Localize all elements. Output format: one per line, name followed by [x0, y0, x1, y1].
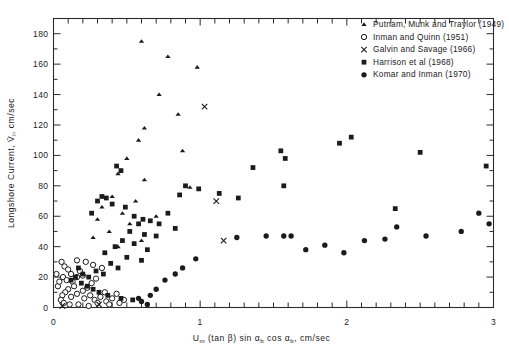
- marker-circle-open: [89, 280, 94, 285]
- marker-triangle: [136, 138, 141, 142]
- marker-triangle: [124, 156, 129, 160]
- marker-circle-filled: [193, 256, 198, 261]
- marker-square: [101, 272, 106, 277]
- marker-circle-filled: [234, 235, 239, 240]
- marker-circle-open: [57, 279, 62, 284]
- marker-x: [214, 198, 220, 204]
- marker-circle-open: [67, 302, 72, 307]
- scatter-plot-figure: 0123020406080100120140160180Putnam, Munk…: [0, 0, 509, 346]
- marker-square: [113, 244, 118, 249]
- marker-square: [278, 148, 283, 153]
- marker-circle-filled: [362, 238, 367, 243]
- marker-circle-filled: [322, 242, 327, 247]
- marker-circle-filled: [173, 271, 178, 276]
- marker-circle-filled: [136, 296, 141, 301]
- y-tick-label: 100: [33, 150, 48, 160]
- marker-square: [130, 298, 135, 303]
- marker-circle-filled: [162, 277, 167, 282]
- marker-square: [95, 199, 100, 204]
- marker-square: [124, 255, 129, 260]
- marker-square: [337, 141, 342, 146]
- x-tick-label: 2: [344, 317, 349, 327]
- marker-square: [136, 221, 141, 226]
- marker-triangle: [139, 239, 144, 243]
- marker-triangle: [139, 39, 144, 43]
- marker-square: [108, 261, 113, 266]
- marker-circle-open: [64, 277, 69, 282]
- series-4: [136, 211, 492, 308]
- marker-circle-open: [68, 294, 73, 299]
- marker-circle-open: [109, 296, 114, 301]
- x-tick-label: 1: [198, 317, 203, 327]
- marker-circle-open: [68, 271, 73, 276]
- series-0: [90, 39, 199, 254]
- legend-label-0: Putnam, Munk and Traylor (1949): [373, 19, 504, 29]
- marker-triangle: [142, 126, 147, 130]
- marker-square: [349, 135, 354, 140]
- marker-square: [132, 214, 137, 219]
- marker-square: [69, 278, 74, 283]
- marker-x: [202, 104, 208, 110]
- marker-circle-filled: [486, 221, 491, 226]
- legend-label-1: Inman and Quinn (1951): [373, 32, 468, 42]
- x-tick-label: 0: [51, 317, 56, 327]
- marker-triangle: [90, 235, 95, 239]
- marker-circle-open: [54, 271, 59, 276]
- x-tick-label: 3: [491, 317, 496, 327]
- marker-circle-open: [83, 259, 88, 264]
- marker-triangle: [120, 211, 125, 215]
- marker-square: [362, 60, 367, 65]
- marker-circle-open: [99, 265, 104, 270]
- marker-square: [85, 284, 90, 289]
- marker-square: [154, 234, 159, 239]
- marker-circle-open: [71, 284, 76, 289]
- marker-square: [177, 193, 182, 198]
- marker-circle-filled: [476, 211, 481, 216]
- marker-circle-open: [107, 302, 112, 307]
- marker-square: [104, 196, 109, 201]
- legend-label-3: Harrison et al (1968): [373, 57, 454, 67]
- marker-circle-filled: [180, 265, 185, 270]
- marker-square: [393, 206, 398, 211]
- marker-triangle: [165, 54, 170, 58]
- y-tick-label: 60: [38, 211, 48, 221]
- marker-circle-open: [87, 293, 92, 298]
- marker-square: [418, 150, 423, 155]
- marker-square: [91, 287, 96, 292]
- marker-circle-filled: [382, 236, 387, 241]
- marker-circle-open: [361, 34, 366, 39]
- marker-square: [196, 186, 201, 191]
- marker-square: [166, 211, 171, 216]
- marker-square: [119, 168, 124, 173]
- marker-square: [102, 250, 107, 255]
- y-axis-title: Longshore Current, V̄l, cm/sec: [6, 98, 17, 228]
- marker-square: [148, 218, 153, 223]
- marker-square: [157, 221, 162, 226]
- marker-circle-open: [82, 296, 87, 301]
- marker-triangle: [180, 149, 185, 153]
- marker-square: [110, 202, 115, 207]
- marker-circle-filled: [145, 302, 150, 307]
- marker-square: [120, 238, 125, 243]
- marker-square: [127, 229, 132, 234]
- marker-circle-filled: [361, 72, 366, 77]
- marker-circle-open: [76, 302, 81, 307]
- marker-triangle: [107, 229, 112, 233]
- marker-triangle: [153, 214, 158, 218]
- marker-circle-filled: [423, 233, 428, 238]
- marker-x: [361, 47, 367, 53]
- x-axis-title: Um (tan β) sin αb cos αb, cm/sec: [193, 333, 331, 344]
- marker-triangle: [175, 112, 180, 116]
- series-3: [69, 135, 489, 303]
- marker-x: [221, 238, 227, 244]
- marker-circle-filled: [394, 224, 399, 229]
- marker-circle-filled: [459, 229, 464, 234]
- marker-square: [76, 266, 81, 271]
- y-tick-label: 160: [33, 59, 48, 69]
- marker-square: [86, 275, 91, 280]
- marker-square: [105, 293, 110, 298]
- legend-label-4: Komar and Inman (1970): [373, 69, 471, 79]
- y-tick-label: 180: [33, 29, 48, 39]
- marker-triangle: [156, 92, 161, 96]
- marker-circle-filled: [263, 233, 268, 238]
